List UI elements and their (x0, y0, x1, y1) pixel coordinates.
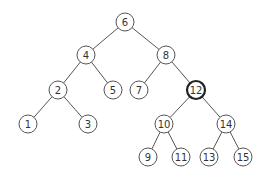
node-label: 5 (110, 85, 116, 96)
node-label: 14 (220, 119, 233, 130)
edge-10-11 (168, 132, 177, 149)
node-label: 6 (122, 17, 128, 28)
tree-node-7: 7 (130, 81, 148, 99)
node-label: 10 (158, 119, 171, 130)
node-label: 15 (237, 152, 250, 163)
edge-10-9 (152, 132, 160, 149)
tree-node-5: 5 (104, 81, 122, 99)
node-label: 2 (55, 85, 61, 96)
tree-node-10: 10 (155, 115, 173, 133)
tree-node-13: 13 (200, 148, 218, 166)
tree-node-4: 4 (77, 46, 95, 64)
tree-node-14: 14 (217, 115, 235, 133)
node-label: 7 (136, 85, 142, 96)
edge-2-1 (34, 97, 52, 118)
tree-node-15: 15 (234, 148, 252, 166)
node-label: 9 (145, 152, 151, 163)
node-label: 4 (83, 50, 89, 61)
tree-node-1: 1 (19, 115, 37, 133)
edge-4-2 (64, 62, 81, 83)
edge-14-15 (230, 132, 239, 149)
nodes-layer: 648257121310149111315 (19, 13, 252, 166)
edge-8-12 (172, 62, 190, 83)
tree-node-3: 3 (79, 115, 97, 133)
edge-12-14 (202, 97, 220, 118)
node-label: 8 (163, 50, 169, 61)
node-label: 12 (190, 85, 203, 96)
tree-node-11: 11 (172, 148, 190, 166)
edge-2-3 (64, 97, 82, 118)
tree-node-6: 6 (116, 13, 134, 31)
tree-node-12: 12 (187, 81, 205, 99)
binary-tree-diagram: 648257121310149111315 (0, 0, 268, 188)
node-label: 13 (203, 152, 216, 163)
node-label: 1 (25, 119, 31, 130)
tree-node-2: 2 (49, 81, 67, 99)
edge-14-13 (213, 132, 222, 149)
edge-4-5 (91, 62, 107, 83)
tree-node-9: 9 (139, 148, 157, 166)
edge-6-4 (93, 28, 118, 49)
edge-12-10 (170, 97, 190, 118)
node-label: 3 (85, 119, 91, 130)
tree-node-8: 8 (157, 46, 175, 64)
edge-8-7 (144, 62, 160, 83)
node-label: 11 (175, 152, 188, 163)
edge-6-8 (132, 28, 159, 50)
